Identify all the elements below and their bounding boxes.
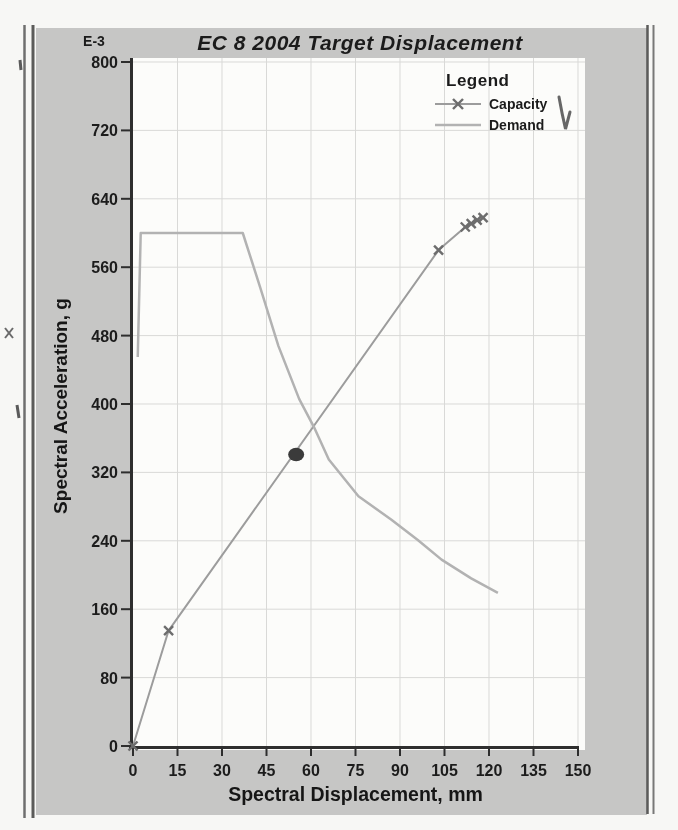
x-axis-title: Spectral Displacement, mm bbox=[133, 783, 578, 806]
y-axis-title: Spectral Acceleration, g bbox=[50, 298, 72, 514]
chart-title: EC 8 2004 Target Displacement bbox=[150, 31, 570, 55]
plot-area bbox=[133, 58, 585, 750]
scan-artifact-cross bbox=[5, 328, 13, 338]
legend-label-demand: Demand bbox=[489, 117, 544, 133]
legend-title: Legend bbox=[446, 71, 547, 91]
legend-label-capacity: Capacity bbox=[489, 96, 547, 112]
legend-item-capacity: Capacity bbox=[434, 96, 547, 112]
legend-item-demand: Demand bbox=[434, 117, 547, 133]
demand-line-sample-icon bbox=[434, 117, 482, 133]
legend: Legend Capacity Demand bbox=[434, 71, 547, 133]
scan-artifact-cross bbox=[5, 328, 13, 338]
capacity-line-sample-icon bbox=[434, 96, 482, 112]
scan-artifact-dash bbox=[17, 405, 19, 418]
y-axis-unit-label: E-3 bbox=[78, 33, 110, 49]
scan-artifact-dash bbox=[20, 60, 21, 70]
scanned-chart-page: 0801602403204004805606407208000153045607… bbox=[0, 0, 678, 830]
